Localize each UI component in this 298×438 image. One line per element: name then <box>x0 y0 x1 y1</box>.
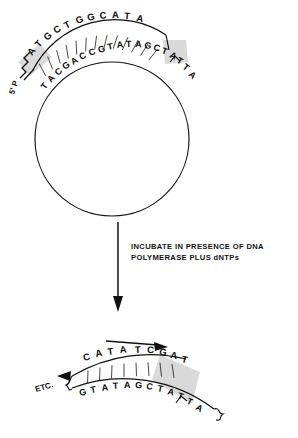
svg-text:G: G <box>144 40 152 51</box>
diagram-canvas: A T G C T G G C A T A T A C G A C C <box>0 0 298 438</box>
svg-text:C: C <box>77 50 88 62</box>
circular-template-panel: A T G C T G G C A T A T A C G A C C <box>7 9 198 216</box>
svg-text:A: A <box>136 12 145 24</box>
svg-text:C: C <box>51 23 63 36</box>
svg-text:G: G <box>41 29 54 42</box>
svg-text:C: C <box>99 9 107 21</box>
instruction-line-1: INCUBATE IN PRESENCE OF DNA <box>131 242 291 253</box>
svg-text:T: T <box>107 345 114 357</box>
dna-replication-diagram: A T G C T G G C A T A T A C G A C C <box>0 0 298 438</box>
instruction-line-2: POLYMERASE PLUS dNTPs <box>131 253 291 264</box>
svg-text:G: G <box>159 346 167 358</box>
svg-text:G: G <box>74 13 85 26</box>
instruction-text: INCUBATE IN PRESENCE OF DNA POLYMERASE P… <box>131 242 291 263</box>
etc-label: ETC. <box>34 380 54 394</box>
left-strand-break <box>57 371 74 390</box>
svg-text:T: T <box>157 383 165 394</box>
process-arrow-group <box>113 222 123 312</box>
svg-text:A: A <box>194 402 205 414</box>
extended-product-panel: ETC. C A T A T C G A T G T A T A G <box>34 341 223 420</box>
svg-text:T: T <box>112 381 119 391</box>
svg-text:T: T <box>90 384 98 395</box>
etc-arrow-head <box>57 371 71 381</box>
process-arrow-head <box>113 296 123 312</box>
svg-text:A: A <box>112 9 119 20</box>
svg-text:A: A <box>124 380 131 390</box>
svg-text:T: T <box>124 10 131 21</box>
highlight-5p-region <box>18 44 52 76</box>
template-circle <box>35 62 189 216</box>
svg-text:A: A <box>116 39 124 50</box>
svg-text:G: G <box>135 380 143 390</box>
svg-text:T: T <box>126 39 132 49</box>
svg-text:A: A <box>187 69 199 81</box>
svg-text:T: T <box>106 41 114 52</box>
svg-text:C: C <box>82 351 91 363</box>
svg-text:A: A <box>135 39 143 49</box>
svg-text:C: C <box>146 381 154 392</box>
svg-text:C: C <box>87 46 97 58</box>
label-5-prime-phosphate: 5' P <box>7 79 20 96</box>
svg-text:A: A <box>119 343 127 355</box>
svg-text:A: A <box>94 347 103 359</box>
svg-text:A: A <box>101 382 109 393</box>
svg-text:C: C <box>147 344 154 355</box>
right-strand-tail <box>214 409 223 421</box>
svg-text:G: G <box>86 11 96 23</box>
svg-text:A: A <box>170 349 179 361</box>
svg-text:G: G <box>78 387 87 398</box>
svg-text:T: T <box>135 344 141 355</box>
svg-text:T: T <box>181 353 189 365</box>
svg-text:T: T <box>62 18 72 31</box>
